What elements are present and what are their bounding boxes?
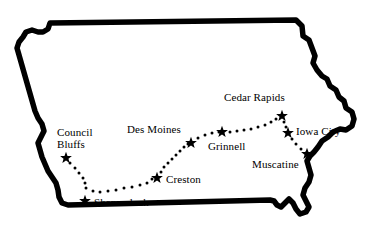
route-dot xyxy=(179,150,182,153)
route-dot xyxy=(151,178,154,181)
city-label-des-moines: Des Moines xyxy=(127,123,181,135)
route-dot xyxy=(115,189,118,192)
route-dot xyxy=(197,137,200,140)
route-dot xyxy=(84,182,87,185)
route-dot xyxy=(171,158,174,161)
city-label-grinnell: Grinnell xyxy=(208,140,245,152)
route-dot xyxy=(146,182,149,185)
route-dot xyxy=(229,131,232,134)
city-label-iowa-city: Iowa City xyxy=(296,125,341,137)
route-dot xyxy=(99,191,102,194)
route-dot xyxy=(85,187,88,190)
route-dot xyxy=(175,154,178,157)
route-dot xyxy=(183,146,186,149)
route-dot xyxy=(139,184,142,187)
city-label-council-bluffs: Council Bluffs xyxy=(57,126,93,150)
star-icon-grinnell[interactable] xyxy=(216,126,228,137)
route-dot xyxy=(295,143,298,146)
city-label-cedar-rapids: Cedar Rapids xyxy=(224,91,285,103)
route-dot xyxy=(243,129,246,132)
city-label-creston: Creston xyxy=(166,173,201,185)
route-dot xyxy=(257,126,260,129)
route-dot xyxy=(204,134,207,137)
iowa-route-map: Council BluffsDes MoinesGrinnellCedar Ra… xyxy=(0,0,375,249)
route-dot xyxy=(283,121,286,124)
route-dot xyxy=(74,167,77,170)
route-dot xyxy=(92,190,95,193)
star-icon-iowa-city[interactable] xyxy=(282,127,294,138)
route-dot xyxy=(211,132,214,135)
route-dot xyxy=(236,130,239,133)
route-dot xyxy=(270,121,273,124)
route-dot xyxy=(82,177,85,180)
route-dot xyxy=(291,138,294,141)
route-dot xyxy=(163,166,166,169)
route-dot xyxy=(264,124,267,127)
star-icon-des-moines[interactable] xyxy=(185,137,197,148)
route-dot xyxy=(107,190,110,193)
star-icon-cedar-rapids[interactable] xyxy=(276,110,288,121)
route-dot xyxy=(160,171,163,174)
route-dot xyxy=(167,162,170,165)
route-dot xyxy=(300,148,303,151)
route-dot xyxy=(78,172,81,175)
route-dot xyxy=(275,118,278,121)
route-dot xyxy=(250,128,253,131)
route-dot xyxy=(131,186,134,189)
city-label-muscatine: Muscatine xyxy=(252,158,299,170)
star-icon-council-bluffs[interactable] xyxy=(60,152,72,163)
route-dot xyxy=(285,126,288,129)
route-dot xyxy=(123,187,126,190)
city-label-shenandoah: Shenandoah xyxy=(94,196,149,208)
